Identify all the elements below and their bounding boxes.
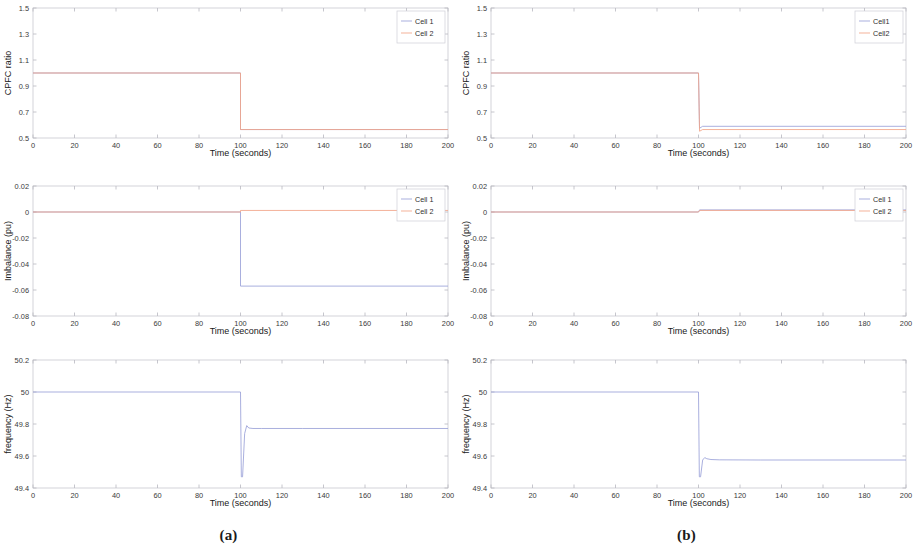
x-tick-label: 40 (112, 319, 120, 328)
x-tick-label: 20 (528, 491, 536, 500)
x-tick-label: 20 (528, 141, 536, 150)
y-tick-label: 1.1 (477, 56, 487, 65)
y-tick-label: 0.02 (473, 182, 487, 191)
x-tick-label: 0 (489, 491, 493, 500)
y-axis-title: Imbalance (pu) (461, 221, 471, 281)
y-axis-title: frequency (Hz) (3, 394, 13, 453)
x-tick-label: 180 (858, 319, 870, 328)
x-tick-label: 40 (570, 491, 578, 500)
x-axis-title: Time (seconds) (210, 326, 272, 336)
y-tick-label: -0.04 (470, 260, 487, 269)
x-tick-label: 160 (359, 141, 371, 150)
x-tick-label: 160 (817, 141, 829, 150)
y-tick-label: 49.4 (473, 484, 487, 493)
legend-label: Cell 1 (415, 195, 433, 204)
x-tick-label: 160 (359, 491, 371, 500)
legend-label: Cell 1 (873, 195, 891, 204)
x-tick-label: 80 (653, 319, 661, 328)
y-tick-label: 49.6 (15, 452, 29, 461)
y-tick-label: -0.04 (12, 260, 29, 269)
x-tick-label: 80 (653, 141, 661, 150)
x-tick-label: 20 (70, 141, 78, 150)
y-tick-label: 50 (479, 388, 487, 397)
subfigure-b: 0204060801001201401601802000.50.70.91.11… (458, 0, 915, 560)
x-tick-label: 120 (276, 319, 288, 328)
x-axis-title: Time (seconds) (668, 326, 730, 336)
y-axis-title: CPFC ratio (3, 51, 13, 96)
y-tick-label: 49.8 (15, 420, 29, 429)
y-axis-title: CPFC ratio (461, 51, 471, 96)
y-tick-label: -0.08 (470, 312, 487, 321)
series-line-cell2 (33, 210, 448, 212)
y-tick-label: 50.2 (15, 356, 29, 365)
x-tick-label: 80 (195, 141, 203, 150)
figure-root: 0204060801001201401601802000.50.70.91.11… (0, 0, 915, 560)
plot-a-frequency: 02040608010012014016018020049.449.649.85… (0, 352, 457, 528)
x-tick-label: 160 (817, 319, 829, 328)
y-tick-label: -0.08 (12, 312, 29, 321)
x-tick-label: 60 (611, 141, 619, 150)
x-tick-label: 180 (400, 491, 412, 500)
legend-label: Cell1 (873, 17, 889, 26)
legend-label: Cell 2 (873, 207, 891, 216)
x-tick-label: 120 (734, 141, 746, 150)
plot-b-imbalance: 020406080100120140160180200-0.08-0.06-0.… (458, 178, 915, 356)
legend-label: Cell 1 (415, 17, 433, 26)
x-tick-label: 40 (570, 319, 578, 328)
y-tick-label: 0.7 (477, 108, 487, 117)
series-line-cell2 (33, 73, 448, 130)
x-tick-label: 40 (112, 141, 120, 150)
series-line-cell1 (33, 212, 448, 286)
y-tick-label: 0.9 (19, 82, 29, 91)
x-tick-label: 180 (400, 141, 412, 150)
plot-a-cpfc: 0204060801001201401601802000.50.70.91.11… (0, 0, 457, 178)
x-tick-label: 20 (70, 319, 78, 328)
x-tick-label: 140 (775, 491, 787, 500)
x-tick-label: 80 (195, 491, 203, 500)
x-tick-label: 60 (611, 491, 619, 500)
x-tick-label: 180 (858, 141, 870, 150)
y-tick-label: 0.5 (477, 134, 487, 143)
y-tick-label: -0.06 (470, 286, 487, 295)
x-tick-label: 60 (153, 491, 161, 500)
x-tick-label: 0 (489, 319, 493, 328)
x-tick-label: 40 (570, 141, 578, 150)
y-tick-label: 1.5 (477, 4, 487, 13)
legend-label: Cell 2 (415, 207, 433, 216)
y-axis-title: frequency (Hz) (461, 394, 471, 453)
x-tick-label: 40 (112, 491, 120, 500)
x-tick-label: 0 (31, 141, 35, 150)
series-line-frequency (33, 392, 448, 477)
legend-label: Cell2 (873, 29, 889, 38)
x-axis-title: Time (seconds) (668, 148, 730, 158)
x-tick-label: 20 (528, 319, 536, 328)
chart-a-frequency: 02040608010012014016018020049.449.649.85… (0, 352, 457, 528)
x-tick-label: 60 (153, 141, 161, 150)
x-tick-label: 200 (442, 491, 454, 500)
x-tick-label: 140 (317, 491, 329, 500)
x-axis-title: Time (seconds) (210, 498, 272, 508)
x-tick-label: 140 (317, 141, 329, 150)
x-tick-label: 200 (442, 141, 454, 150)
y-tick-label: 1.1 (19, 56, 29, 65)
x-tick-label: 140 (775, 319, 787, 328)
y-tick-label: 0.02 (15, 182, 29, 191)
x-tick-label: 60 (153, 319, 161, 328)
x-tick-label: 120 (734, 319, 746, 328)
chart-b-cpfc: 0204060801001201401601802000.50.70.91.11… (458, 0, 915, 178)
x-tick-label: 0 (489, 141, 493, 150)
y-tick-label: 50.2 (473, 356, 487, 365)
series-line-cell2 (491, 73, 906, 131)
y-tick-label: 49.4 (15, 484, 29, 493)
y-tick-label: 1.3 (19, 30, 29, 39)
x-tick-label: 0 (31, 319, 35, 328)
chart-b-imbalance: 020406080100120140160180200-0.08-0.06-0.… (458, 178, 915, 356)
x-axis-title: Time (seconds) (210, 148, 272, 158)
subfigure-caption-b: (b) (458, 527, 915, 544)
x-tick-label: 80 (195, 319, 203, 328)
x-tick-label: 160 (359, 319, 371, 328)
x-tick-label: 140 (317, 319, 329, 328)
legend-label: Cell 2 (415, 29, 433, 38)
y-tick-label: 0.5 (19, 134, 29, 143)
x-tick-label: 60 (611, 319, 619, 328)
